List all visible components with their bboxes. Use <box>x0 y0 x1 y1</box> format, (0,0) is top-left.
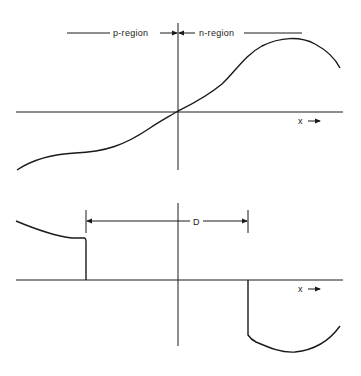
top-panel: p-region n-region x <box>16 23 343 170</box>
bottom-curve-p-side <box>16 221 86 280</box>
bottom-x-label: x <box>298 284 303 294</box>
bottom-curve-n-side <box>248 280 340 352</box>
dimension-label: D <box>193 217 200 227</box>
diagram-canvas: p-region n-region x D x <box>0 0 361 376</box>
p-region-label: p-region <box>113 28 148 38</box>
top-x-label: x <box>298 116 303 126</box>
n-region-label: n-region <box>199 28 234 38</box>
bottom-panel: D x <box>16 203 343 352</box>
